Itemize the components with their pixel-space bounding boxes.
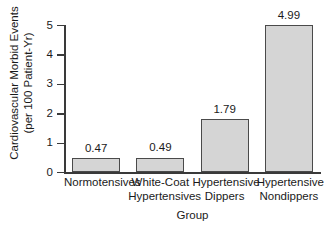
bar-group: 1.79	[201, 25, 249, 172]
bar-chart: Cardiovascular Morbid Events (per 100 Pa…	[0, 0, 336, 234]
bar	[265, 25, 313, 172]
x-axis-line	[64, 172, 321, 174]
bar-value-label: 0.49	[149, 142, 171, 154]
x-axis-category-label-line: Normotensives	[64, 175, 128, 189]
x-axis-category-label-line: Nondippers	[257, 189, 321, 203]
y-axis-tick-label: 4	[47, 49, 53, 61]
bar-group: 0.49	[136, 25, 184, 172]
y-axis-tick: 0	[57, 172, 64, 173]
y-axis-tick: 4	[57, 54, 64, 55]
y-axis-tick: 5	[57, 25, 64, 26]
x-axis-category-label: HypertensiveDippers	[193, 175, 257, 203]
x-axis-category-label: White-CoatHypertensives	[128, 175, 192, 203]
bar-value-label: 0.47	[85, 143, 107, 155]
x-axis-category-label-line: Hypertensive	[193, 175, 257, 189]
bar-group: 0.47	[72, 25, 120, 172]
x-axis-title: Group	[64, 210, 321, 222]
bar	[72, 158, 120, 172]
y-axis-tick: 1	[57, 143, 64, 144]
bar	[136, 158, 184, 172]
bar-value-label: 1.79	[213, 104, 235, 116]
bar-value-label: 4.99	[278, 10, 300, 22]
y-axis-title-line-1: Cardiovascular Morbid Events	[7, 6, 21, 159]
x-axis-category-label-line: Hypertensive	[257, 175, 321, 189]
x-axis-category-label-line: White-Coat	[128, 175, 192, 189]
x-axis-category-label: HypertensiveNondippers	[257, 175, 321, 203]
y-axis-tick-label: 3	[47, 79, 53, 91]
x-axis-category-labels: NormotensivesWhite-CoatHypertensivesHype…	[64, 175, 321, 209]
bar-group: 4.99	[265, 25, 313, 172]
y-axis-title-line-2: (per 100 Patient-Yr)	[21, 33, 35, 134]
x-axis-category-label-line: Hypertensives	[128, 189, 192, 203]
x-axis-category-label: Normotensives	[64, 175, 128, 189]
y-axis-tick: 2	[57, 113, 64, 114]
plot-area: 0.470.491.794.99	[64, 25, 321, 172]
y-axis-tick: 3	[57, 84, 64, 85]
bar	[201, 119, 249, 172]
y-axis-tick-label: 2	[47, 108, 53, 120]
y-axis-title: Cardiovascular Morbid Events (per 100 Pa…	[4, 8, 38, 158]
y-axis-tick-label: 5	[47, 20, 53, 32]
y-axis-tick-label: 1	[47, 138, 53, 150]
x-axis-category-label-line: Dippers	[193, 189, 257, 203]
y-axis-tick-label: 0	[47, 167, 53, 179]
